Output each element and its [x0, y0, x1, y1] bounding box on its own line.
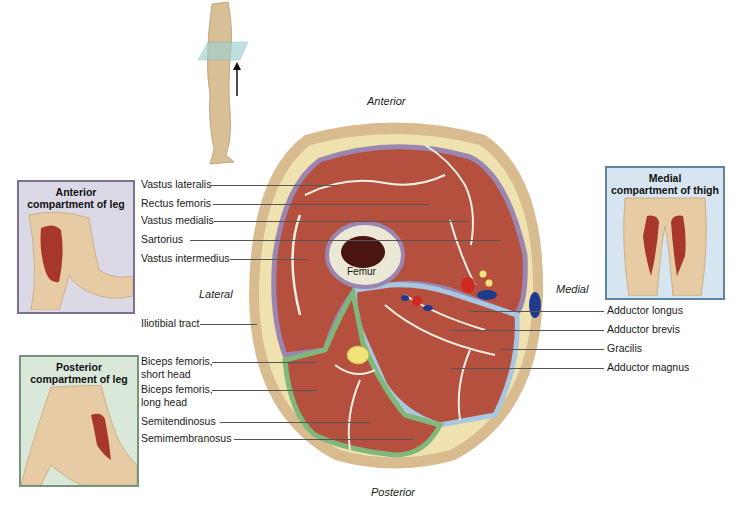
label-vastus-intermedius: Vastus intermedius	[141, 252, 230, 265]
label-biceps-femoris-short-head: Biceps femoris, short head	[141, 355, 213, 381]
leader-line	[230, 259, 307, 260]
femur-label: Femur	[347, 265, 376, 278]
leader-line	[212, 390, 317, 391]
label-vastus-lateralis: Vastus lateralis	[141, 178, 211, 191]
posterior-compartment-leg-panel: Posterior compartment of leg	[19, 355, 139, 487]
leader-line	[450, 330, 604, 331]
panel-title-line1: Medial	[607, 172, 723, 184]
label-semimembranosus: Semimembranosus	[141, 432, 231, 445]
orientation-anterior: Anterior	[367, 95, 406, 107]
orientation-posterior: Posterior	[371, 486, 415, 498]
leader-line	[214, 221, 469, 222]
medial-thigh-illustration	[607, 196, 723, 296]
orientation-lateral: Lateral	[199, 288, 233, 300]
label-iliotibial-tract: Iliotibial tract	[141, 317, 199, 330]
leader-line	[213, 204, 430, 205]
label-adductor-magnus: Adductor magnus	[607, 361, 689, 374]
label-line1: Biceps femoris,	[141, 355, 213, 368]
label-sartorius: Sartorius	[141, 233, 183, 246]
label-vastus-medialis: Vastus medialis	[141, 214, 214, 227]
label-line2: short head	[141, 368, 213, 381]
panel-title: Anterior compartment of leg	[19, 182, 133, 210]
panel-title-line1: Anterior	[19, 186, 133, 198]
thigh-cross-section	[245, 115, 545, 475]
leader-line	[211, 185, 339, 186]
leader-line	[200, 324, 257, 325]
panel-title-line2: compartment of thigh	[607, 184, 723, 196]
label-rectus-femoris: Rectus femoris	[141, 197, 211, 210]
label-adductor-brevis: Adductor brevis	[607, 323, 680, 336]
medial-compartment-thigh-panel: Medial compartment of thigh	[605, 166, 725, 300]
leader-line	[190, 240, 501, 241]
label-gracilis: Gracilis	[607, 342, 642, 355]
orientation-medial: Medial	[556, 283, 588, 295]
anterior-compartment-leg-panel: Anterior compartment of leg	[17, 180, 135, 314]
leader-line	[470, 311, 604, 312]
label-line1: Biceps femoris,	[141, 383, 213, 396]
anterior-leg-illustration	[19, 210, 133, 310]
panel-title-line2: compartment of leg	[19, 198, 133, 210]
label-line2: long head	[141, 396, 213, 409]
leader-line	[220, 422, 370, 423]
posterior-leg-illustration	[21, 385, 137, 485]
panel-title: Posterior compartment of leg	[21, 357, 137, 385]
label-adductor-longus: Adductor longus	[607, 304, 683, 317]
label-biceps-femoris-long-head: Biceps femoris, long head	[141, 383, 213, 409]
panel-title: Medial compartment of thigh	[607, 168, 723, 196]
leader-line	[450, 368, 604, 369]
panel-title-line2: compartment of leg	[21, 373, 137, 385]
leader-line	[234, 439, 414, 440]
leader-line	[212, 362, 317, 363]
leader-line	[500, 349, 604, 350]
label-semitendinosus: Semitendinosus	[141, 415, 216, 428]
panel-title-line1: Posterior	[21, 361, 137, 373]
